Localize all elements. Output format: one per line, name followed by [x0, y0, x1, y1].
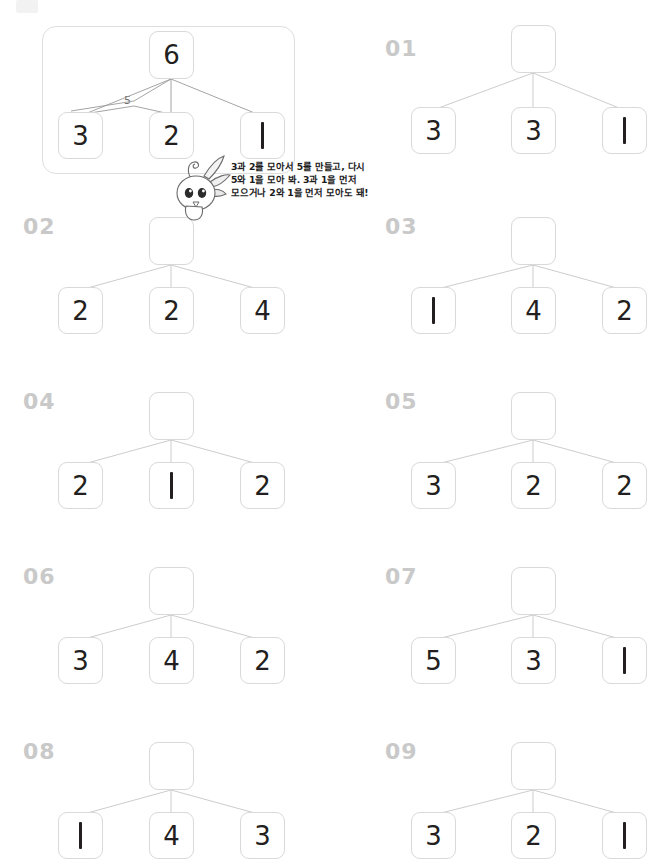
child-box-09-3: [602, 812, 647, 859]
problem-number-08: 08: [23, 741, 56, 763]
child-box-07-3: [602, 637, 647, 684]
rabbit-mascot: [166, 150, 236, 222]
answer-box-03[interactable]: [511, 217, 556, 265]
example-child-box-1: 3: [58, 112, 103, 159]
digit-one-glyph: [170, 472, 173, 499]
example-top-box: 6: [149, 31, 194, 79]
child-box-04-3: 2: [240, 462, 285, 509]
corner-mark: [16, 0, 38, 13]
child-box-08-1: [58, 812, 103, 859]
child-box-01-2: 3: [511, 107, 556, 154]
answer-box-02[interactable]: [149, 217, 194, 265]
problem-number-01: 01: [385, 38, 418, 60]
answer-box-06[interactable]: [149, 567, 194, 615]
child-box-08-2: 4: [149, 812, 194, 859]
speech-line-2: 5와 1을 모아 봐. 3과 1을 먼저: [231, 173, 381, 186]
problem-number-07: 07: [385, 566, 418, 588]
child-box-06-3: 2: [240, 637, 285, 684]
answer-box-08[interactable]: [149, 742, 194, 790]
speech-line-3: 모으거나 2와 1을 먼저 모아도 돼!: [231, 186, 381, 199]
child-box-04-1: 2: [58, 462, 103, 509]
example-sub-label-5: 5: [124, 95, 131, 106]
example-child-box-3: [240, 112, 285, 159]
problem-number-02: 02: [23, 216, 56, 238]
child-box-05-2: 2: [511, 462, 556, 509]
digit-one-glyph: [623, 647, 626, 674]
child-box-09-2: 2: [511, 812, 556, 859]
digit-one-glyph: [623, 822, 626, 849]
child-box-09-1: 3: [411, 812, 456, 859]
problem-number-04: 04: [23, 391, 56, 413]
child-box-02-1: 2: [58, 287, 103, 334]
problem-number-03: 03: [385, 216, 418, 238]
child-box-06-2: 4: [149, 637, 194, 684]
answer-box-04[interactable]: [149, 392, 194, 440]
answer-box-09[interactable]: [511, 742, 556, 790]
child-box-03-1: [411, 287, 456, 334]
child-box-04-2: [149, 462, 194, 509]
child-box-08-3: 3: [240, 812, 285, 859]
child-box-02-2: 2: [149, 287, 194, 334]
child-box-01-1: 3: [411, 107, 456, 154]
problem-number-09: 09: [385, 741, 418, 763]
example-speech-text: 3과 2를 모아서 5를 만들고, 다시 5와 1을 모아 봐. 3과 1을 먼…: [231, 160, 381, 200]
answer-box-07[interactable]: [511, 567, 556, 615]
child-box-05-1: 3: [411, 462, 456, 509]
problem-number-06: 06: [23, 566, 56, 588]
speech-line-1: 3과 2를 모아서 5를 만들고, 다시: [231, 160, 381, 173]
child-box-05-3: 2: [602, 462, 647, 509]
child-box-01-3: [602, 107, 647, 154]
child-box-02-3: 4: [240, 287, 285, 334]
child-box-06-1: 3: [58, 637, 103, 684]
child-box-03-3: 2: [602, 287, 647, 334]
child-box-07-1: 5: [411, 637, 456, 684]
digit-one-glyph: [261, 122, 264, 149]
digit-one-glyph: [623, 117, 626, 144]
child-box-03-2: 4: [511, 287, 556, 334]
child-box-07-2: 3: [511, 637, 556, 684]
digit-one-glyph: [79, 822, 82, 849]
answer-box-05[interactable]: [511, 392, 556, 440]
problem-number-05: 05: [385, 391, 418, 413]
answer-box-01[interactable]: [511, 25, 556, 73]
digit-one-glyph: [432, 297, 435, 324]
